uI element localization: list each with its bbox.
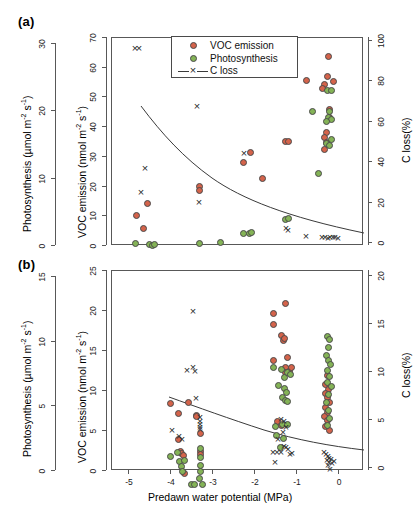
panel-b-voc-spine — [106, 270, 107, 470]
axis-tick — [368, 371, 372, 372]
axis-tick — [368, 323, 372, 324]
datapoint-voc — [167, 400, 174, 407]
datapoint-photosynthesis — [197, 445, 204, 452]
datapoint-closs — [178, 435, 187, 444]
legend-item-voc-emission[interactable]: VOC emission — [176, 39, 274, 52]
axis-ticklabel: 20 — [88, 304, 98, 318]
axis-ticklabel: 50 — [88, 90, 98, 104]
axis-tick — [51, 43, 55, 44]
axis-tick — [368, 40, 372, 41]
datapoint-photosynthesis — [179, 468, 186, 475]
datapoint-voc — [196, 187, 203, 194]
axis-tick — [368, 202, 372, 203]
axis-tick — [102, 215, 106, 216]
datapoint-closs — [191, 367, 200, 376]
axis-tick — [102, 390, 106, 391]
datapoint-photosynthesis — [328, 383, 335, 390]
axis-tick — [368, 467, 372, 468]
axis-tick — [51, 405, 55, 406]
datapoint-photosynthesis — [326, 336, 333, 343]
datapoint-photosynthesis — [167, 453, 174, 460]
legend-label-voc: VOC emission — [210, 40, 274, 51]
axis-tick — [368, 121, 372, 122]
panel-a-plot-frame: VOC emission Photosynthesis × C loss — [111, 37, 363, 245]
axis-ticklabel: 0 — [37, 466, 47, 476]
axis-ticklabel: 10 — [376, 365, 386, 379]
panel-b: (b) Photosynthesis (µmol m-2 s-1) 15 10 … — [0, 250, 415, 531]
datapoint-voc — [330, 78, 337, 85]
axis-ticklabel: 10 — [37, 335, 47, 349]
legend-item-closs[interactable]: × C loss — [176, 64, 238, 77]
panel-b-photosynthesis-axis-title: Photosynthesis (µmol m-2 s-1) — [20, 321, 33, 457]
axis-tick — [368, 419, 372, 420]
datapoint-photosynthesis — [285, 215, 292, 222]
axis-ticklabel: 20 — [88, 180, 98, 194]
datapoint-voc — [270, 357, 277, 364]
axis-ticklabel: 15 — [88, 344, 98, 358]
axis-tick — [102, 186, 106, 187]
datapoint-photosynthesis — [309, 108, 316, 115]
axis-tick — [102, 430, 106, 431]
datapoint-photosynthesis — [181, 457, 188, 464]
axis-tick — [51, 470, 55, 471]
datapoint-voc — [324, 73, 331, 80]
axis-tick — [368, 275, 372, 276]
datapoint-voc — [285, 138, 292, 145]
datapoint-photosynthesis — [323, 399, 330, 406]
datapoint-voc — [140, 225, 147, 232]
legend: VOC emission Photosynthesis × C loss — [171, 36, 298, 78]
axis-ticklabel: 20 — [37, 104, 47, 118]
axis-ticklabel: -4 — [163, 477, 179, 487]
datapoint-photosynthesis — [151, 241, 158, 248]
axis-tick — [368, 242, 372, 243]
axis-ticklabel: 0 — [376, 238, 386, 248]
datapoint-photosynthesis — [326, 415, 333, 422]
panel-a: (a) Photosynthesis (µmol m-2 s-1) 30 20 … — [0, 0, 415, 265]
legend-marker-photosynthesis — [176, 55, 210, 62]
datapoint-photosynthesis — [287, 371, 294, 378]
datapoint-voc — [281, 335, 288, 342]
axis-tick — [296, 470, 297, 474]
datapoint-closs — [196, 425, 205, 434]
datapoint-photosynthesis — [248, 229, 255, 236]
datapoint-photosynthesis — [217, 239, 224, 246]
axis-ticklabel: 5 — [88, 426, 98, 436]
panel-a-photosynthesis-axis-title: Photosynthesis (µmol m-2 s-1) — [20, 96, 33, 232]
axis-ticklabel: 10 — [88, 209, 98, 223]
axis-tick — [128, 470, 129, 474]
axis-tick — [102, 126, 106, 127]
axis-ticklabel: 40 — [376, 155, 386, 169]
axis-tick — [102, 270, 106, 271]
axis-tick — [254, 470, 255, 474]
axis-tick — [51, 341, 55, 342]
datapoint-photosynthesis — [284, 398, 291, 405]
panel-a-voc-spine — [106, 37, 107, 245]
datapoint-voc — [325, 53, 332, 60]
axis-ticklabel: 20 — [376, 269, 386, 283]
datapoint-closs — [302, 232, 311, 241]
datapoint-photosynthesis — [191, 481, 198, 488]
panel-b-tag: (b) — [18, 257, 35, 272]
axis-ticklabel: 0 — [88, 466, 98, 476]
datapoint-closs — [192, 394, 201, 403]
axis-ticklabel: 0 — [376, 463, 386, 473]
datapoint-photosynthesis — [197, 454, 204, 461]
datapoint-closs — [137, 188, 146, 197]
axis-tick — [338, 470, 339, 474]
datapoint-closs — [284, 226, 293, 235]
datapoint-photosynthesis — [323, 118, 330, 125]
axis-tick — [102, 67, 106, 68]
axis-tick — [170, 470, 171, 474]
datapoint-photosynthesis — [270, 364, 277, 371]
axis-tick — [51, 276, 55, 277]
datapoint-voc — [303, 77, 310, 84]
datapoint-voc — [284, 354, 291, 361]
legend-marker-closs: × — [176, 65, 210, 76]
panel-b-closs-spine — [368, 270, 369, 470]
axis-tick — [102, 156, 106, 157]
datapoint-closs — [288, 449, 297, 458]
axis-ticklabel: 60 — [88, 61, 98, 75]
datapoint-photosynthesis — [325, 407, 332, 414]
datapoint-photosynthesis — [324, 422, 331, 429]
axis-ticklabel: 70 — [88, 31, 98, 45]
